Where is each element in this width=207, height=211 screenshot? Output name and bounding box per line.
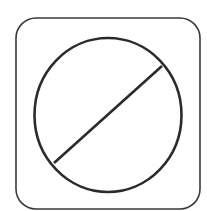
- diagonal-slash: [54, 66, 162, 163]
- prohibited-symbol-tile: [0, 0, 207, 211]
- prohibited-icon: [0, 0, 207, 211]
